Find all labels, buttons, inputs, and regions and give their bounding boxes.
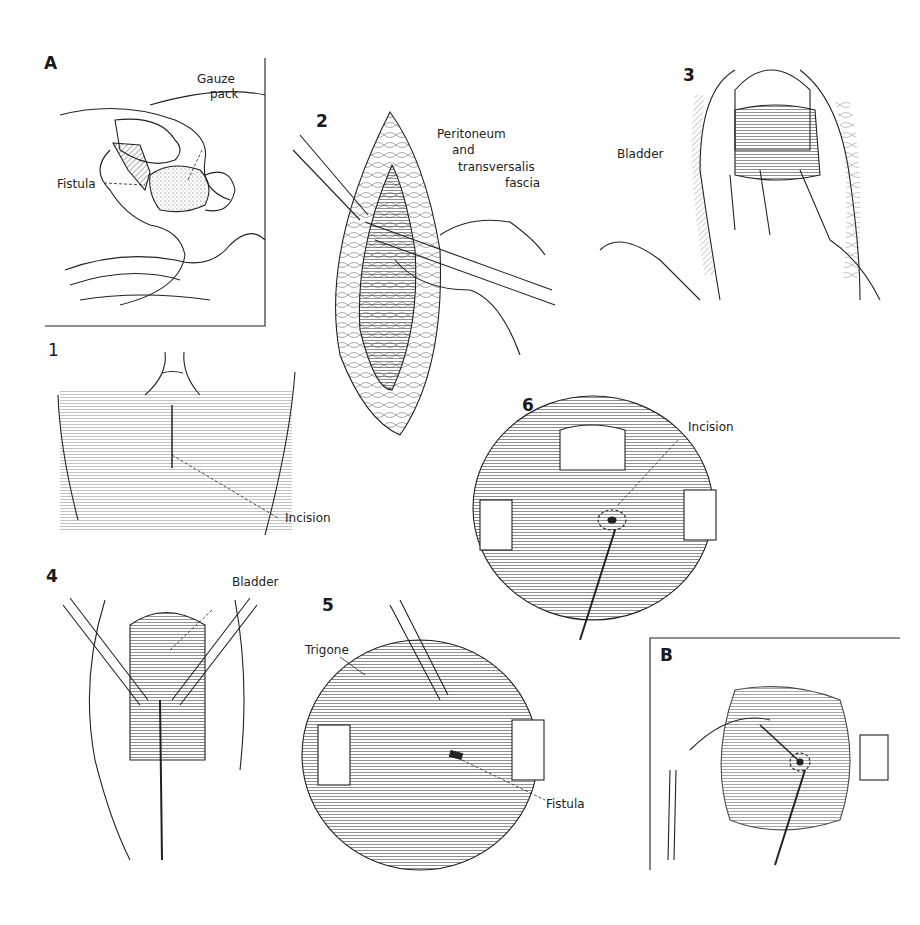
panel-label-5: 5 [322, 595, 334, 615]
annotation-gauze-line2: pack [210, 87, 239, 102]
annotation-bladder-3: Bladder [617, 147, 663, 162]
panel-label-3: 3 [683, 65, 695, 85]
annotation-fistula-a: Fistula [57, 177, 96, 192]
annotation-fistula-5: Fistula [546, 797, 585, 812]
annotation-peritoneum-line4: fascia [505, 176, 540, 191]
panel-label-4: 4 [46, 566, 58, 586]
panel-1-drawing [58, 352, 295, 535]
panel-4-drawing [63, 598, 257, 860]
panel-label-2: 2 [316, 111, 328, 131]
panel-6-drawing [473, 396, 716, 640]
annotation-incision-1: Incision [285, 511, 331, 526]
panel-label-a: A [44, 53, 57, 73]
panel-5-drawing [302, 600, 545, 870]
annotation-peritoneum-line1: Peritoneum [437, 127, 506, 142]
annotation-peritoneum-line3: transversalis [458, 160, 535, 175]
panel-label-1: 1 [48, 340, 59, 360]
annotation-bladder-4: Bladder [232, 575, 278, 590]
panel-label-6: 6 [522, 395, 534, 415]
panel-b-drawing [650, 638, 900, 870]
panel-3-drawing [600, 70, 880, 300]
annotation-trigone: Trigone [305, 643, 349, 658]
annotation-peritoneum-line2: and [452, 143, 475, 158]
panel-label-b: B [660, 645, 673, 665]
annotation-gauze-line1: Gauze [197, 72, 235, 87]
annotation-incision-6: Incision [688, 420, 734, 435]
